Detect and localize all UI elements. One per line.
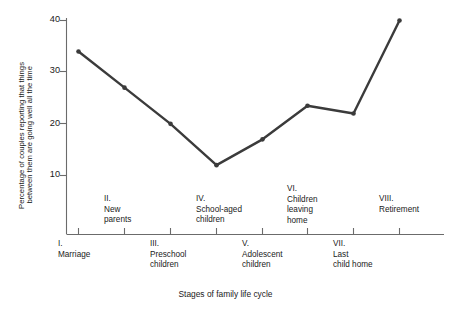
stage-label-7: VII. Last child home (333, 239, 373, 271)
data-point-4 (214, 163, 219, 168)
x-tick-marks (79, 228, 400, 235)
data-point-1 (76, 49, 81, 54)
stage-label-3: III. Preschool children (150, 239, 186, 271)
data-series-line (79, 21, 400, 166)
stage-label-4: IV. School-aged children (196, 194, 242, 226)
data-point-7 (351, 111, 356, 116)
stage-label-5: V. Adolescent children (242, 239, 283, 271)
stage-label-8: VIII. Retirement (379, 194, 419, 215)
x-axis-title: Stages of family life cycle (0, 289, 451, 299)
stage-label-6: VI. Children leaving home (287, 184, 318, 226)
data-series-markers (76, 18, 402, 167)
data-point-6 (305, 103, 310, 108)
stage-label-2: II. New parents (104, 194, 131, 226)
data-point-5 (260, 137, 265, 142)
stage-label-1: I. Marriage (58, 239, 90, 260)
data-point-8 (397, 18, 402, 23)
chart-figure: Percentage of couples reporting that thi… (0, 0, 451, 311)
data-point-2 (122, 85, 127, 90)
chart-plot-area (0, 0, 451, 311)
data-point-3 (168, 122, 173, 127)
